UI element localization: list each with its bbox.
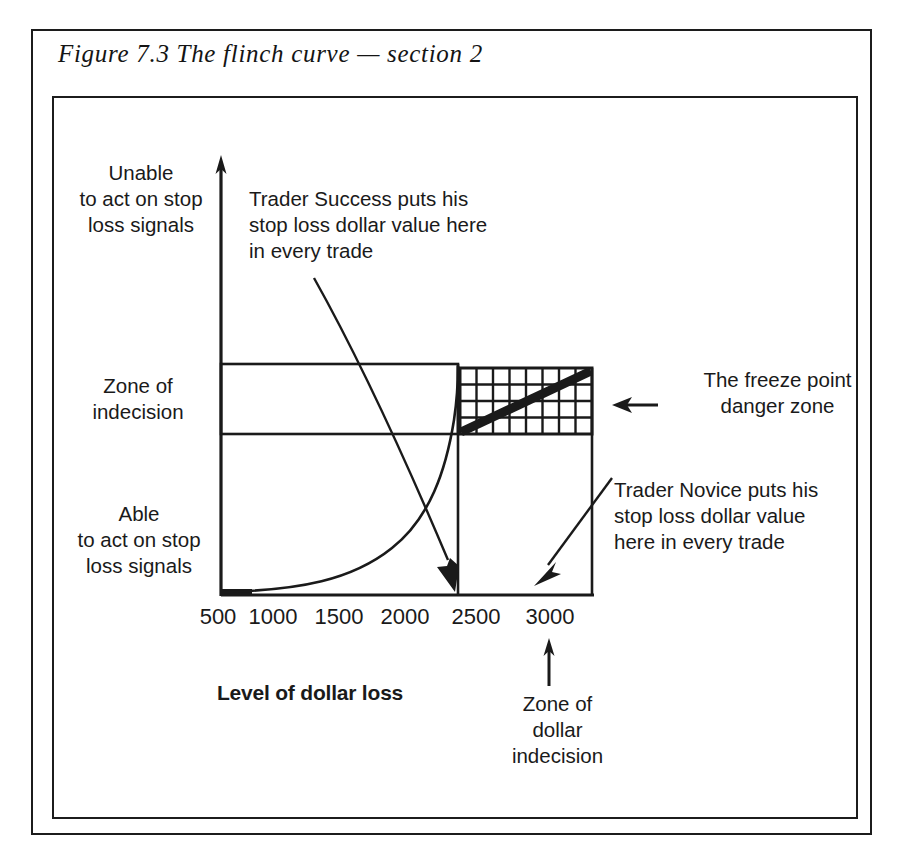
x-tick-1000: 1000 <box>240 604 306 630</box>
x-tick-1500: 1500 <box>306 604 372 630</box>
figure-title: Figure 7.3 The flinch curve — section 2 <box>58 40 758 68</box>
annotation-trader-success: Trader Success puts his stop loss dollar… <box>249 186 539 264</box>
annotation-zone-of-dollar-indecision: Zone of dollar indecision <box>465 691 650 769</box>
annotation-freeze-point-danger-zone: The freeze point danger zone <box>660 367 895 419</box>
x-tick-2000: 2000 <box>372 604 438 630</box>
y-label-unable-to-act: Unable to act on stop loss signals <box>62 160 220 238</box>
annotation-trader-novice: Trader Novice puts his stop loss dollar … <box>614 477 900 555</box>
x-axis-title: Level of dollar loss <box>160 680 460 706</box>
y-label-zone-of-indecision: Zone of indecision <box>58 373 218 425</box>
figure-root: Figure 7.3 The flinch curve — section 2 <box>0 0 900 855</box>
x-tick-3000: 3000 <box>517 604 583 630</box>
x-tick-2500: 2500 <box>443 604 509 630</box>
y-label-able-to-act: Able to act on stop loss signals <box>58 501 220 579</box>
